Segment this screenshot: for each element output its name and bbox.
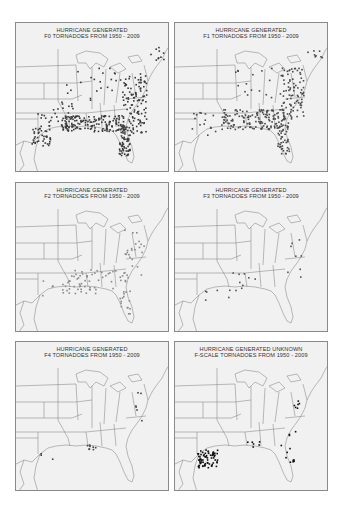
tornado-point	[199, 460, 201, 462]
state-boundary	[291, 392, 295, 416]
map-panel-f0: HURRICANE GENERATED F0 TORNADOES FROM 19…	[15, 22, 169, 172]
tornado-point	[213, 115, 215, 117]
tornado-point	[214, 459, 216, 461]
tornado-point	[124, 129, 126, 131]
tornado-point	[80, 291, 82, 293]
tornado-point	[45, 130, 47, 132]
tornado-point	[129, 135, 131, 137]
tornado-point	[77, 289, 79, 291]
panel-title: HURRICANE GENERATED F0 TORNADOES FROM 19…	[16, 27, 168, 40]
tornado-point	[118, 129, 120, 131]
tornado-point	[283, 95, 285, 97]
state-boundary	[116, 73, 120, 103]
state-boundary	[34, 454, 40, 491]
state-boundary	[275, 392, 279, 422]
tornado-point	[125, 84, 127, 86]
tornado-point	[35, 128, 37, 130]
tornado-point	[134, 97, 136, 99]
tornado-point	[62, 120, 64, 122]
map-panel-f1: HURRICANE GENERATED F1 TORNADOES FROM 19…	[174, 22, 328, 172]
tornado-point	[315, 56, 317, 58]
map-panel-f4: HURRICANE GENERATED F4 TORNADOES FROM 19…	[15, 341, 169, 491]
tornado-point	[295, 85, 297, 87]
tornado-point	[89, 280, 91, 282]
tornado-point	[282, 145, 284, 147]
tornado-point	[89, 289, 91, 291]
tornado-point	[281, 131, 283, 133]
tornado-point	[43, 136, 45, 138]
tornado-point	[42, 140, 44, 142]
tornado-point	[56, 116, 58, 118]
tornado-point	[42, 295, 44, 297]
tornado-point	[285, 153, 287, 155]
tornado-point	[274, 126, 276, 128]
tornado-point	[225, 121, 227, 123]
tornado-point	[282, 141, 284, 143]
tornado-point	[129, 313, 131, 315]
tornado-point	[94, 119, 96, 121]
state-boundary	[110, 63, 126, 73]
tornado-point	[47, 143, 49, 145]
tornado-point	[282, 109, 284, 111]
tornado-point	[322, 57, 324, 59]
tornado-point	[255, 121, 257, 123]
tornado-point	[300, 276, 302, 278]
tornado-point	[65, 123, 67, 125]
tornado-point	[75, 293, 77, 295]
tornado-point	[145, 112, 147, 114]
state-boundary	[303, 65, 307, 81]
tornado-point	[252, 74, 254, 76]
tornado-point	[239, 109, 241, 111]
tornado-point	[139, 247, 141, 249]
tornado-point	[129, 150, 131, 152]
tornado-point	[303, 80, 305, 82]
tornado-point	[299, 72, 301, 74]
tornado-point	[123, 143, 125, 145]
tornado-point	[258, 117, 260, 119]
state-boundary	[175, 428, 285, 432]
tornado-point	[292, 110, 294, 112]
tornado-point	[89, 448, 91, 450]
tornado-point	[143, 122, 145, 124]
map-panel-unknown: HURRICANE GENERATED UNKNOWN F-SCALE TORN…	[174, 341, 328, 491]
tornado-point	[106, 124, 108, 126]
tornado-point	[284, 133, 286, 135]
tornado-point	[242, 285, 244, 287]
tornado-point	[297, 87, 299, 89]
tornado-point	[73, 129, 75, 131]
tornado-point	[145, 131, 147, 133]
tornado-point	[120, 280, 122, 282]
tornado-point	[124, 272, 126, 274]
tornado-point	[259, 441, 261, 443]
tornado-point	[271, 110, 273, 112]
tornado-point	[266, 112, 268, 114]
tornado-point	[93, 116, 95, 118]
tornado-point	[287, 71, 289, 73]
tornado-point	[275, 123, 277, 125]
tornado-point	[207, 451, 209, 453]
state-boundary	[217, 368, 229, 446]
tornado-point	[146, 90, 148, 92]
tornado-point	[234, 114, 236, 116]
tornado-point	[127, 130, 129, 132]
tornado-point	[100, 87, 102, 89]
tornado-point	[247, 123, 249, 125]
tornado-point	[71, 130, 73, 132]
state-boundary	[235, 51, 267, 69]
tornado-point	[289, 94, 291, 96]
tornado-point	[80, 128, 82, 130]
tornado-point	[137, 119, 139, 121]
tornado-point	[278, 117, 280, 119]
tornado-point	[246, 83, 248, 85]
tornado-point	[43, 138, 45, 140]
tornado-point	[141, 103, 143, 105]
tornado-point	[281, 75, 283, 77]
tornado-point	[138, 241, 140, 243]
tornado-point	[124, 131, 126, 133]
tornado-point	[261, 109, 263, 111]
tornado-point	[62, 284, 64, 286]
tornado-point	[227, 123, 229, 125]
tornado-point	[288, 82, 290, 84]
tornado-point	[88, 116, 90, 118]
tornado-point	[269, 128, 271, 130]
